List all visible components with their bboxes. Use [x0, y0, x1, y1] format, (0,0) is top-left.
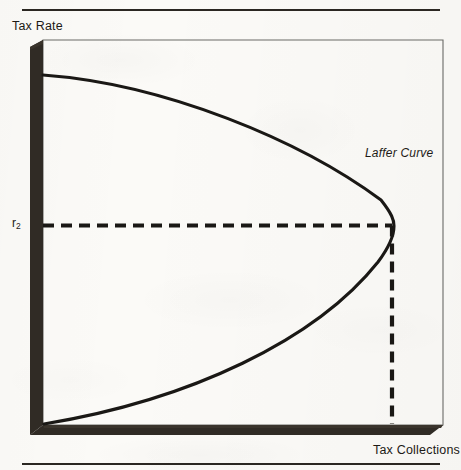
- laffer-curve-plot: [0, 0, 461, 470]
- figure-page: Tax Rate Tax Collections Laffer Curve r2: [0, 0, 461, 470]
- laffer-curve-path: [43, 75, 394, 424]
- plot-frame-box: [43, 40, 443, 425]
- y-axis-bar: [30, 40, 43, 435]
- x-axis-bar-top-bevel: [43, 425, 443, 428]
